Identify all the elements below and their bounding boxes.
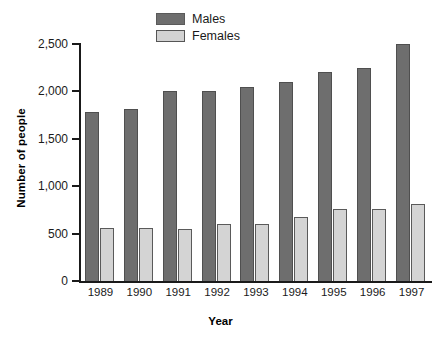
y-axis-tick-label: 500: [48, 227, 68, 241]
y-axis-tick: [72, 233, 80, 235]
x-axis-tick-label: 1989: [81, 286, 120, 298]
bar-females-1991: [178, 229, 192, 281]
x-axis-tick-label: 1992: [198, 286, 237, 298]
legend-label-males: Males: [192, 13, 225, 26]
legend-item-males: Males: [156, 12, 240, 26]
y-axis-tick: [72, 90, 80, 92]
legend-item-females: Females: [156, 29, 240, 43]
bar-males-1990: [124, 109, 138, 281]
bar-males-1993: [240, 87, 254, 281]
bar-group: [314, 44, 353, 281]
x-axis-tick-label: 1991: [159, 286, 198, 298]
bar-females-1997: [411, 204, 425, 281]
legend-label-females: Females: [192, 30, 240, 43]
x-axis-tick-label: 1996: [353, 286, 392, 298]
bar-females-1994: [294, 217, 308, 281]
x-axis-tick-label: 1990: [120, 286, 159, 298]
y-axis-tick-label: 2,500: [38, 37, 68, 51]
y-axis-tick: [72, 280, 80, 282]
x-axis-tick-label: 1993: [237, 286, 276, 298]
x-axis-tick-label: 1995: [314, 286, 353, 298]
bar-group: [198, 44, 237, 281]
bar-group: [275, 44, 314, 281]
y-axis-tick-label: 0: [61, 274, 68, 288]
bar-females-1995: [333, 209, 347, 281]
bar-males-1989: [85, 112, 99, 281]
y-axis-tick: [72, 185, 80, 187]
bar-males-1992: [202, 91, 216, 281]
legend-swatch-females-icon: [156, 30, 185, 42]
y-axis-tick-label: 1,500: [38, 132, 68, 146]
bar-group: [159, 44, 198, 281]
bar-females-1993: [255, 224, 269, 281]
bar-females-1990: [139, 228, 153, 281]
y-axis-tick: [72, 138, 80, 140]
x-axis-tick-label: 1994: [275, 286, 314, 298]
bar-males-1991: [163, 91, 177, 281]
bars-layer: [81, 44, 431, 281]
bar-females-1989: [100, 228, 114, 281]
x-axis-line: [79, 281, 432, 283]
bar-chart: Males Females 05001,0001,5002,0002,500 N…: [0, 0, 441, 343]
y-axis-title: Number of people: [15, 98, 27, 218]
chart-legend: Males Females: [156, 12, 240, 43]
bar-females-1992: [217, 224, 231, 281]
bar-group: [392, 44, 431, 281]
bar-group: [120, 44, 159, 281]
y-axis-tick-label: 1,000: [38, 179, 68, 193]
bar-group: [353, 44, 392, 281]
bar-males-1997: [396, 44, 410, 281]
y-axis-tick-label: 2,000: [38, 84, 68, 98]
bar-females-1996: [372, 209, 386, 281]
bar-group: [81, 44, 120, 281]
legend-swatch-males-icon: [156, 13, 185, 25]
bar-males-1994: [279, 82, 293, 281]
bar-males-1996: [357, 68, 371, 281]
bar-males-1995: [318, 72, 332, 281]
x-axis-tick-label: 1997: [392, 286, 431, 298]
bar-group: [237, 44, 276, 281]
x-axis-title: Year: [0, 315, 441, 327]
y-axis-tick: [72, 43, 80, 45]
